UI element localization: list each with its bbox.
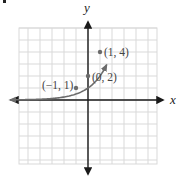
point-0-2 — [86, 74, 90, 78]
label-point-1-4: (1, 4) — [104, 46, 129, 59]
y-axis-label: y — [82, 0, 90, 15]
label-point-neg1-1: (−1, 1) — [42, 79, 74, 92]
point-neg1-1 — [74, 86, 78, 90]
coordinate-plane: x y (−1, 1) (0, 2) (1, 4) — [0, 0, 181, 180]
x-axis-label: x — [169, 92, 176, 107]
point-1-4 — [98, 50, 102, 54]
label-point-0-2: (0, 2) — [92, 71, 117, 84]
